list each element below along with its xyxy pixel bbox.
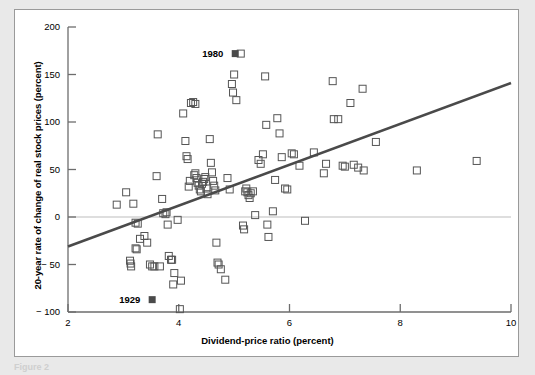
data-point xyxy=(213,239,220,246)
data-point xyxy=(149,263,156,270)
data-point xyxy=(302,217,309,224)
data-point xyxy=(274,115,281,122)
data-point xyxy=(164,221,171,228)
x-tick-label: 8 xyxy=(385,317,415,328)
data-point xyxy=(269,208,276,215)
data-point xyxy=(264,221,271,228)
data-point xyxy=(252,212,259,219)
x-tick-label: 2 xyxy=(53,317,83,328)
data-point xyxy=(182,138,189,145)
data-point xyxy=(123,189,130,196)
data-point xyxy=(217,266,224,273)
y-tick-label: 50 xyxy=(20,165,60,175)
data-point xyxy=(320,170,327,177)
data-point xyxy=(130,200,137,207)
y-tick-label: − 50 xyxy=(20,260,60,270)
annotation-label-1929: 1929 xyxy=(119,294,140,305)
data-point xyxy=(146,261,153,268)
y-tick-label: 100 xyxy=(20,117,60,127)
data-point xyxy=(330,116,337,123)
data-point xyxy=(276,130,283,137)
annotation-label-1980: 1980 xyxy=(202,48,223,59)
data-point xyxy=(329,78,336,85)
data-point xyxy=(335,116,342,123)
data-point xyxy=(224,175,231,182)
data-point xyxy=(262,73,269,80)
data-point xyxy=(372,138,379,145)
data-point xyxy=(208,169,215,176)
data-point xyxy=(171,270,178,277)
data-point xyxy=(153,173,160,180)
data-point xyxy=(359,85,366,92)
chart-panel: 20-year rate of change of real stock pri… xyxy=(14,9,519,357)
figure-root: 20-year rate of change of real stock pri… xyxy=(0,0,535,375)
highlighted-data-point xyxy=(232,50,239,57)
x-tick-label: 6 xyxy=(275,317,305,328)
data-point xyxy=(272,176,279,183)
y-tick-label: − 100 xyxy=(20,307,60,317)
data-point xyxy=(222,276,229,283)
scatter-plot-canvas xyxy=(15,10,520,356)
data-point xyxy=(265,233,272,240)
data-point xyxy=(473,157,480,164)
data-point xyxy=(159,195,166,202)
data-point xyxy=(350,161,357,168)
y-tick-label: 200 xyxy=(20,22,60,32)
data-point xyxy=(230,89,237,96)
data-point xyxy=(113,201,120,208)
data-point xyxy=(206,136,213,143)
x-tick-label: 4 xyxy=(164,317,194,328)
data-point xyxy=(278,154,285,161)
data-point xyxy=(170,281,177,288)
data-point xyxy=(141,233,148,240)
data-point xyxy=(144,239,151,246)
data-point xyxy=(136,235,143,242)
data-point xyxy=(233,97,240,104)
x-tick-label: 10 xyxy=(496,317,526,328)
data-point xyxy=(177,277,184,284)
y-tick-label: 150 xyxy=(20,70,60,80)
data-point xyxy=(263,121,270,128)
data-point xyxy=(228,81,235,88)
data-point xyxy=(323,160,330,167)
data-point xyxy=(207,159,214,166)
trend-line xyxy=(68,83,511,246)
data-point xyxy=(180,110,187,117)
highlighted-data-point xyxy=(149,296,156,303)
data-points xyxy=(113,50,480,313)
figure-caption: Figure 2 xyxy=(14,362,519,375)
data-point xyxy=(347,100,354,107)
data-point xyxy=(154,131,161,138)
y-tick-label: 0 xyxy=(20,212,60,222)
data-point xyxy=(231,71,238,78)
data-point xyxy=(413,167,420,174)
